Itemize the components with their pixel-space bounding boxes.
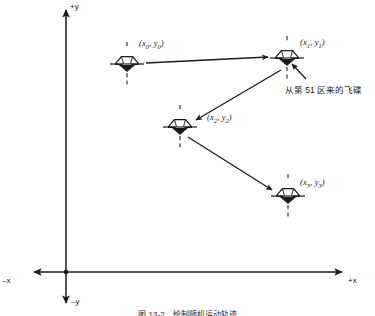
figure-caption: 图 13-2 绘制随机运动轨迹 <box>0 308 375 316</box>
annotation-callout-arrow <box>292 64 306 79</box>
coord-label-p0: (x0, y0) <box>139 38 164 50</box>
area-51-annotation: 从第 51 区来的飞碟 <box>285 83 362 95</box>
axis-label-x-positive: +x <box>348 276 357 285</box>
coord-label-p2: (x2, y2) <box>207 112 232 124</box>
axis-label-x-negative: –x <box>2 276 10 285</box>
coord-label-p3: (x3, y3) <box>300 177 325 189</box>
ufo-path-diagram: +y +x –x –y (x0, y0) (x1, y1) (x2, y2) (… <box>0 0 375 316</box>
ufo-markers-group <box>110 36 305 218</box>
origin-dot <box>64 270 69 275</box>
path-arrow-p0-p1 <box>146 57 268 63</box>
path-arrow-p2-p3 <box>188 137 272 190</box>
coord-close-p0: ) <box>161 38 164 48</box>
coord-close-p1: ) <box>322 37 325 47</box>
coord-label-p1: (x1, y1) <box>300 37 325 49</box>
ufo-marker-p2 <box>163 105 197 149</box>
axis-label-y-negative: –y <box>71 297 79 306</box>
coord-close-p2: ) <box>229 112 232 122</box>
coord-close-p3: ) <box>322 177 325 187</box>
axis-label-y-positive: +y <box>70 2 79 11</box>
